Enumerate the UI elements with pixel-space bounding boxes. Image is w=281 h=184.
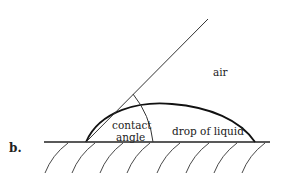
drop-label: drop of liquid <box>172 125 244 137</box>
figure-label: b. <box>9 141 22 155</box>
surface-hatching <box>45 143 265 173</box>
contact-angle-diagram: b. air contact angle drop of liquid <box>0 0 281 184</box>
contact-angle-label-line1: contact <box>112 119 152 131</box>
contact-angle-label-line2: angle <box>116 131 145 143</box>
air-label: air <box>213 66 229 78</box>
